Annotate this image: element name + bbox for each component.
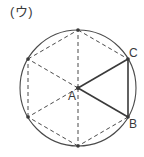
point-label-c: C [129, 47, 138, 59]
point-label-b: B [129, 118, 137, 130]
geometry-diagram [0, 0, 144, 157]
vertex-dot-lower-left [26, 115, 30, 119]
vertex-dot-bottom [76, 144, 80, 148]
panel-label: (ウ) [10, 5, 33, 18]
center-dot-a [76, 86, 80, 90]
hexagon-side-lower-right-to-bottom [78, 117, 128, 146]
hexagon-side-bottom-to-lower-left [28, 117, 78, 146]
figure-panel: (ウ) A B C [0, 0, 144, 157]
vertex-dot-top [76, 28, 80, 32]
radius-to-lower-right-solid [78, 88, 128, 117]
point-label-a: A [68, 90, 76, 102]
radius-to-upper-left [28, 59, 78, 88]
radius-to-upper-right-solid [78, 59, 128, 88]
vertex-dot-upper-left [26, 57, 30, 61]
hexagon-side-top-to-upper-right [78, 30, 128, 59]
hexagon-side-upper-left-to-top [28, 30, 78, 59]
